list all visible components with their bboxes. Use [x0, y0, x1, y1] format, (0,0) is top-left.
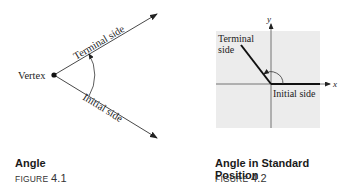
- figure-word: FIGURE: [215, 174, 248, 184]
- figure-word: FIGURE: [15, 174, 48, 184]
- figure-number: 4.1: [51, 172, 67, 184]
- figure-4-2-label: FIGURE 4.2: [215, 172, 267, 184]
- vertex-point: [51, 72, 56, 77]
- vertex-label: Vertex: [18, 70, 46, 81]
- angle-arc: [89, 54, 95, 96]
- standard-position-diagram: y x Terminal side Initial side: [216, 14, 337, 128]
- terminal-side-label: Terminal side: [71, 23, 126, 62]
- terminal-label-line1: Terminal: [218, 33, 254, 44]
- initial-side-label: Initial side: [81, 91, 125, 124]
- terminal-label-line2: side: [218, 44, 235, 55]
- initial-side-label: Initial side: [273, 88, 316, 99]
- y-axis-label: y: [266, 14, 271, 24]
- angle-diagram: Vertex Terminal side Initial side: [18, 14, 157, 138]
- figure-number: 4.2: [251, 172, 267, 184]
- figure-4-1-label: FIGURE 4.1: [15, 172, 67, 184]
- x-axis-label: x: [332, 79, 337, 89]
- figure-4-1-title: Angle: [15, 157, 46, 169]
